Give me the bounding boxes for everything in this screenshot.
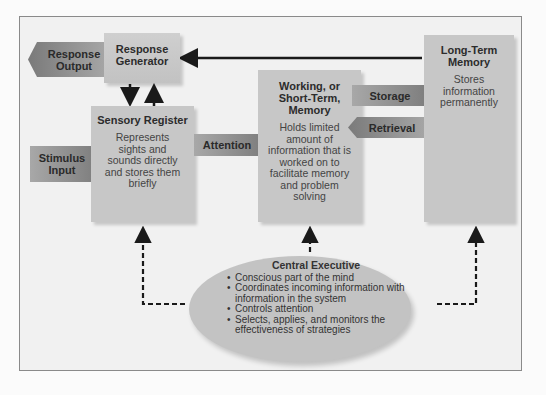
retrieval-label: Retrieval — [369, 122, 415, 134]
executive-to-ltm-dashed — [437, 230, 476, 304]
executive-to-sensory-dashed — [143, 230, 185, 304]
central-executive-title: Central Executive — [226, 260, 406, 271]
retrieval-arrow: Retrieval — [348, 117, 430, 138]
attention-label: Attention — [203, 139, 251, 151]
sensory-register-title: Sensory Register — [95, 114, 190, 126]
working-memory-description: Holds limited amount of information that… — [262, 122, 357, 203]
attention-arrow: Attention — [194, 134, 268, 156]
storage-arrow: Storage — [352, 85, 434, 106]
working-memory-box: Working, or Short-Term, Memory Holds lim… — [258, 70, 361, 222]
long-term-memory-title: Long-Term Memory — [428, 44, 510, 68]
storage-label: Storage — [370, 90, 411, 102]
response-output-label: Response Output — [38, 48, 110, 72]
stimulus-input-label: Stimulus Input — [30, 152, 94, 176]
working-memory-title: Working, or Short-Term, Memory — [262, 80, 357, 116]
exec-bullet: Controls attention — [226, 304, 406, 315]
exec-bullet: Selects, applies, and monitors the effec… — [226, 315, 406, 336]
response-generator-title: Response Generator — [104, 43, 180, 67]
response-output-arrow: Response Output — [28, 42, 110, 77]
sensory-register-description: Represents sights and sounds directly an… — [95, 132, 190, 190]
long-term-memory-box: Long-Term Memory Stores information perm… — [424, 35, 514, 222]
exec-bullet: Coordinates incoming information with in… — [226, 283, 406, 304]
sensory-register-box: Sensory Register Represents sights and s… — [91, 106, 194, 222]
response-generator-box: Response Generator — [104, 33, 180, 83]
central-executive-bullets: Conscious part of the mind Coordinates i… — [226, 273, 406, 336]
long-term-memory-description: Stores information permanently — [428, 74, 510, 109]
central-executive-content: Central Executive Conscious part of the … — [226, 260, 406, 336]
